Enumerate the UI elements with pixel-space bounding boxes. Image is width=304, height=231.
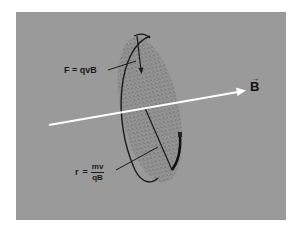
radius-lhs: r <box>75 168 79 177</box>
magnetic-field-label: → B <box>250 80 259 93</box>
radius-equals: = <box>83 168 88 177</box>
force-equation-label: F = qvB <box>64 66 97 75</box>
radius-denominator: qB <box>92 173 103 182</box>
radius-numerator: mv <box>91 163 105 173</box>
force-equals: = <box>72 65 77 75</box>
magnetic-field-orbit-diagram <box>0 0 304 231</box>
particle <box>178 132 182 137</box>
force-rhs: qvB <box>80 65 97 75</box>
orbit-disk <box>106 32 194 189</box>
radius-equation-label: r = mv qB <box>75 163 104 182</box>
vector-arrow-icon: → <box>251 75 259 83</box>
radius-fraction: mv qB <box>91 163 105 182</box>
force-lhs: F <box>64 65 70 75</box>
